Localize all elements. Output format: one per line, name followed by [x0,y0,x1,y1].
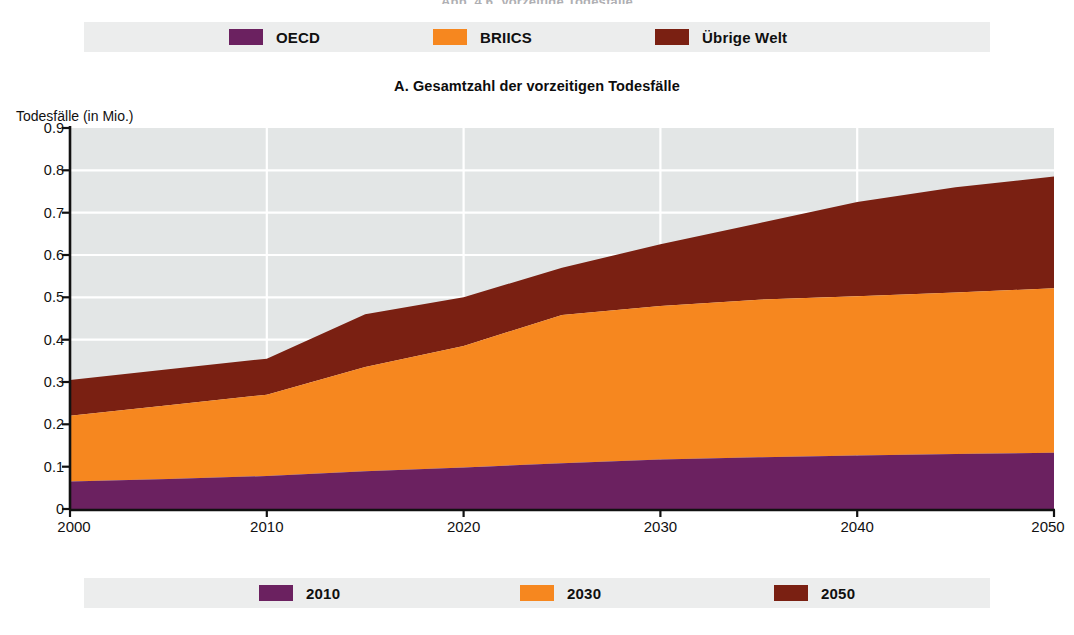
legend-label-2050: 2050 [821,585,855,602]
legend-item-2010: 2010 [259,585,340,602]
chart-plot-area: 0.9 0.8 0.7 0.6 0.5 0.4 0.3 0.2 0.1 0 20… [0,0,1074,635]
legend-label-2010: 2010 [306,585,340,602]
legend-item-2050: 2050 [774,585,855,602]
legend-swatch-2010 [259,585,293,601]
x-tick-2010: 2010 [250,518,283,535]
x-tick-2040: 2040 [841,518,874,535]
legend-bottom: 2010 2030 2050 [84,578,990,608]
x-tick-2050: 2050 [1031,518,1064,535]
legend-item-2030: 2030 [520,585,601,602]
x-tick-2020: 2020 [447,518,480,535]
legend-label-2030: 2030 [567,585,601,602]
legend-swatch-2030 [520,585,554,601]
x-tick-2030: 2030 [644,518,677,535]
x-tick-2000: 2000 [57,518,90,535]
x-axis-tick-labels: 2000 2010 2020 2030 2040 2050 [0,0,1074,635]
legend-swatch-2050 [774,585,808,601]
